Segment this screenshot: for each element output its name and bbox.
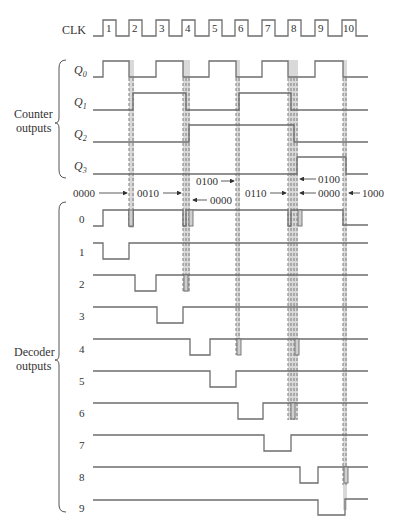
decoder-output-7: 7 <box>79 435 368 451</box>
svg-text:2: 2 <box>79 278 85 290</box>
svg-text:Q0: Q0 <box>74 63 87 79</box>
svg-text:9: 9 <box>79 502 85 514</box>
svg-text:5: 5 <box>79 375 85 387</box>
decoder-output-2: 2 <box>79 275 368 291</box>
counter-brace <box>55 60 66 178</box>
decoder-output-8: 8 <box>79 467 368 483</box>
svg-text:6: 6 <box>79 407 85 419</box>
svg-text:7: 7 <box>79 439 85 451</box>
clock-pulse-9: 9 <box>318 22 324 34</box>
decoder-output-5: 5 <box>79 371 368 387</box>
state-label-0000-b: 0000 <box>210 194 233 206</box>
state-label-0110: 0110 <box>245 187 267 199</box>
state-label-0100-b: 0100 <box>318 173 341 185</box>
decoder-outputs-group: Decoder outputs <box>14 202 66 512</box>
state-label-0000-c: 0000 <box>318 187 341 199</box>
svg-text:4: 4 <box>79 343 85 355</box>
clock-pulse-8: 8 <box>291 22 297 34</box>
signal-q2: Q2 <box>74 125 368 143</box>
glitch-state-labels: 0000 0010 0000 0100 0110 0100 0000 1000 <box>73 173 385 206</box>
decoder-output-1: 1 <box>79 243 368 259</box>
clock-pulse-10: 10 <box>343 22 355 34</box>
svg-text:Q3: Q3 <box>74 159 87 175</box>
decoder-label-line2: outputs <box>16 359 52 373</box>
svg-text:8: 8 <box>79 471 85 483</box>
clock-signal: CLK 1 2 3 4 5 6 7 8 9 10 <box>62 20 368 37</box>
clock-pulse-7: 7 <box>265 22 271 34</box>
clock-pulse-5: 5 <box>212 22 218 34</box>
clock-pulse-1: 1 <box>106 22 112 34</box>
decoder-output-4: 4 <box>79 339 368 355</box>
counter-label-line2: outputs <box>16 121 52 135</box>
counter-outputs-group: Counter outputs <box>14 60 66 178</box>
signal-q1: Q1 <box>74 93 368 111</box>
decoder-output-9: 9 <box>79 499 368 515</box>
clock-pulse-6: 6 <box>238 22 244 34</box>
state-label-0010: 0010 <box>137 187 160 199</box>
decoder-label-line1: Decoder <box>14 345 55 359</box>
clock-pulse-2: 2 <box>132 22 138 34</box>
decoder-output-3: 3 <box>79 307 368 323</box>
state-label-0100-a: 0100 <box>196 175 219 187</box>
svg-text:Q2: Q2 <box>74 127 87 143</box>
propagation-delay-bands <box>129 60 347 510</box>
clock-label: CLK <box>62 23 86 37</box>
state-label-1000: 1000 <box>362 187 385 199</box>
ripple-counter-timing-diagram: CLK 1 2 3 4 5 6 7 8 9 10 Counter outputs… <box>0 0 399 522</box>
clock-pulse-4: 4 <box>185 22 191 34</box>
state-label-0000-a: 0000 <box>73 187 96 199</box>
svg-text:Q1: Q1 <box>74 95 87 111</box>
signal-q0: Q0 <box>74 61 368 79</box>
decoder-brace <box>55 202 66 512</box>
decoder-output-0: 0 <box>79 210 368 226</box>
svg-text:3: 3 <box>79 310 85 322</box>
clock-pulse-3: 3 <box>159 22 165 34</box>
svg-text:1: 1 <box>79 246 85 258</box>
decoder-output-6: 6 <box>79 403 368 419</box>
counter-label-line1: Counter <box>14 107 53 121</box>
svg-text:0: 0 <box>79 213 85 225</box>
